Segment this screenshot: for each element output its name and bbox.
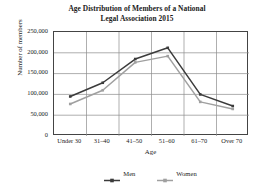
- x-axis-tick-label: 31–40: [94, 137, 110, 144]
- data-point-marker: [134, 61, 137, 64]
- x-axis-tick-label: 61–70: [191, 137, 207, 144]
- legend-marker-icon: [104, 170, 120, 177]
- x-axis-tick-labels: Under 3031–4041–5051–6061–70Over 70: [53, 137, 248, 148]
- chart-title: Age Distribution of Members of a Nationa…: [28, 4, 246, 23]
- chart-title-line-1: Age Distribution of Members of a Nationa…: [28, 4, 246, 14]
- data-point-marker: [69, 103, 72, 106]
- y-axis-tick-label: 200,000: [27, 49, 48, 55]
- plot-area: [53, 31, 248, 135]
- chart-legend: MenWomen: [53, 167, 248, 179]
- data-point-marker: [166, 47, 169, 50]
- y-axis-tick-label: 150,000: [27, 69, 48, 75]
- legend-item-women: Women: [157, 170, 196, 177]
- x-axis-title: Age: [53, 148, 248, 155]
- chart-title-line-2: Legal Association 2015: [28, 14, 246, 24]
- data-point-marker: [231, 108, 234, 111]
- legend-label: Men: [123, 170, 135, 177]
- y-axis-tick-label: 250,000: [27, 28, 48, 34]
- x-axis-tick-label: 51–60: [159, 137, 175, 144]
- y-axis-tick-label: 50,000: [30, 111, 48, 117]
- data-point-marker: [231, 105, 234, 108]
- data-point-marker: [101, 89, 104, 92]
- data-point-marker: [199, 101, 202, 104]
- chart-figure: Age Distribution of Members of a Nationa…: [0, 0, 269, 183]
- data-point-marker: [199, 93, 202, 96]
- data-point-marker: [166, 55, 169, 58]
- legend-marker-icon: [157, 170, 173, 177]
- data-point-marker: [69, 95, 72, 98]
- data-point-marker: [101, 81, 104, 84]
- x-axis-tick-label: Over 70: [221, 137, 242, 144]
- legend-label: Women: [176, 170, 196, 177]
- y-axis-tick-label: 100,000: [27, 90, 48, 96]
- x-axis-tick-label: Under 30: [57, 137, 81, 144]
- gridlines: [54, 32, 249, 136]
- x-axis-tick-label: 41–50: [126, 137, 142, 144]
- y-axis-tick-label: 0: [45, 132, 48, 138]
- y-axis-tick-labels: 050,000100,000150,000200,000250,000: [0, 24, 51, 142]
- legend-item-men: Men: [104, 170, 135, 177]
- plot-canvas: [54, 32, 249, 136]
- data-point-marker: [134, 58, 137, 61]
